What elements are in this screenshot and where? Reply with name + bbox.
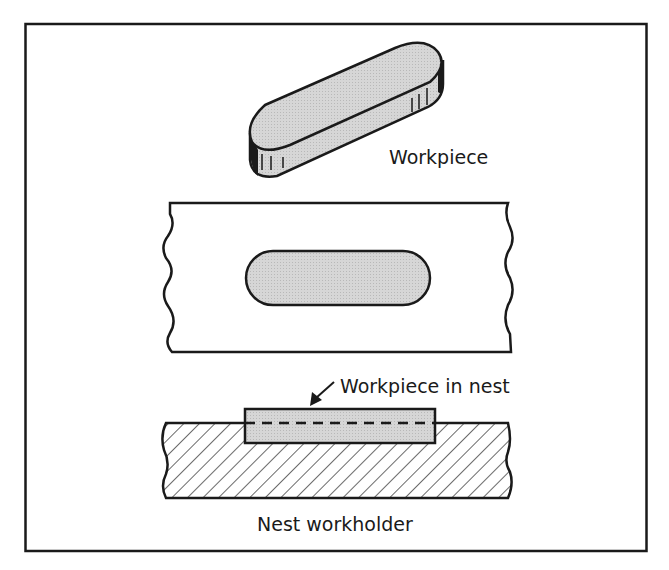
nest-workholder-diagram: Workpiece Workpiece in nest Nest workhol… [0, 0, 669, 570]
label-workpiece-in-nest: Workpiece in nest [340, 375, 510, 397]
nest-plate-top-view [163, 203, 512, 352]
label-nest-workholder: Nest workholder [257, 513, 413, 535]
workpiece-in-nest [245, 409, 435, 443]
nest-slot [246, 251, 430, 305]
nest-section-view [162, 382, 511, 498]
label-workpiece: Workpiece [389, 146, 488, 168]
